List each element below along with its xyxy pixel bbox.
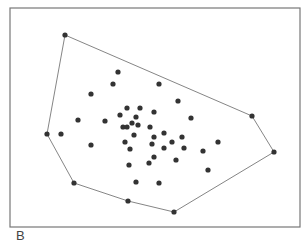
interior-point	[200, 148, 205, 153]
interior-point	[188, 115, 193, 120]
hull-vertex-point	[125, 198, 130, 203]
interior-point	[137, 105, 142, 110]
interior-point	[122, 139, 127, 144]
interior-point	[124, 124, 129, 129]
interior-point	[115, 69, 120, 74]
interior-point	[179, 134, 184, 139]
hull-vertex-point	[249, 113, 254, 118]
interior-point	[129, 120, 134, 125]
point-set	[44, 32, 276, 214]
interior-point	[147, 124, 152, 129]
interior-point	[88, 91, 93, 96]
interior-point	[169, 139, 174, 144]
interior-point	[151, 134, 156, 139]
interior-point	[156, 180, 161, 185]
interior-point	[124, 105, 129, 110]
interior-point	[205, 167, 210, 172]
interior-point	[126, 162, 131, 167]
interior-point	[88, 142, 93, 147]
interior-point	[149, 141, 154, 146]
convex-hull-polygon	[47, 35, 274, 212]
hull-vertex-point	[44, 131, 49, 136]
interior-point	[156, 81, 161, 86]
plot-frame	[10, 8, 300, 227]
interior-point	[133, 179, 138, 184]
interior-point	[117, 112, 122, 117]
interior-point	[215, 139, 220, 144]
hull-vertex-point	[71, 180, 76, 185]
interior-point	[151, 154, 156, 159]
interior-point	[161, 130, 166, 135]
interior-point	[135, 122, 140, 127]
interior-point	[131, 132, 136, 137]
interior-point	[110, 81, 115, 86]
convex-hull-figure	[0, 0, 306, 245]
panel-label: B	[16, 229, 25, 243]
interior-point	[102, 118, 107, 123]
interior-point	[173, 157, 178, 162]
interior-point	[181, 145, 186, 150]
interior-point	[175, 98, 180, 103]
hull-vertex-point	[62, 32, 67, 37]
interior-point	[161, 145, 166, 150]
interior-point	[133, 114, 138, 119]
interior-point	[58, 131, 63, 136]
interior-point	[151, 109, 156, 114]
interior-point	[146, 160, 151, 165]
hull-vertex-point	[171, 209, 176, 214]
interior-point	[75, 117, 80, 122]
interior-point	[127, 146, 132, 151]
hull-vertex-point	[271, 149, 276, 154]
